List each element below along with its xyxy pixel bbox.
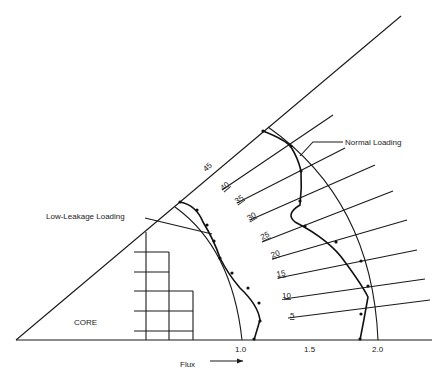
normal-loading-leader xyxy=(300,142,343,156)
angle-label-10: 10 xyxy=(282,291,291,300)
angle-label-25: 25 xyxy=(259,230,271,242)
flux-axis-label: Flux xyxy=(180,360,195,369)
angle-label-5: 5 xyxy=(290,311,295,320)
tick-1-0: 1.0 xyxy=(235,345,247,354)
core-grid xyxy=(134,232,193,340)
diagonal-45-line xyxy=(16,16,401,340)
tick-2-0: 2.0 xyxy=(372,345,384,354)
angle-label-20: 20 xyxy=(270,248,282,260)
angle-label-40: 40 xyxy=(219,180,232,193)
angle-label-45: 45 xyxy=(201,160,214,173)
flux-arrow-icon xyxy=(210,359,243,364)
core-label: CORE xyxy=(74,318,97,327)
angle-label-15: 15 xyxy=(276,268,287,279)
low-leakage-loading-curve xyxy=(180,202,260,340)
flux-diagram: 5 10 15 20 25 30 35 40 45 Normal Loading xyxy=(0,0,444,380)
angle-label-35: 35 xyxy=(233,193,246,206)
tick-1-5: 1.5 xyxy=(304,345,316,354)
normal-loading-label: Normal Loading xyxy=(345,138,401,147)
angle-label-30: 30 xyxy=(246,210,259,223)
low-leakage-loading-label: Low-Leakage Loading xyxy=(46,212,125,221)
